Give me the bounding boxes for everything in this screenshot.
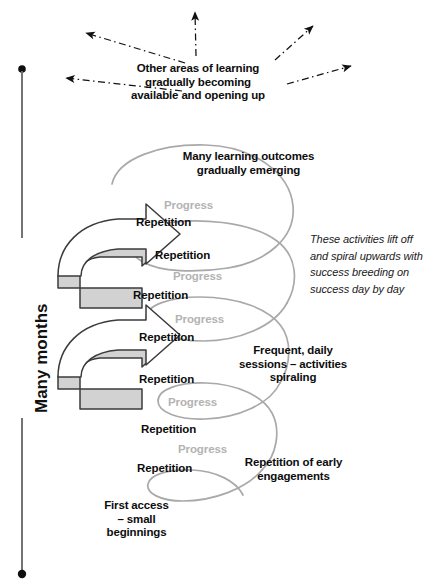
cycle-label-repetition-2: Repetition — [155, 249, 210, 261]
callout-other-areas-line-2: gradually becoming — [118, 76, 278, 90]
callout-other-areas-line-1: Other areas of learning — [118, 62, 278, 76]
callout-outcomes-line-1: Many learning outcomes — [166, 150, 331, 164]
cycle-label-repetition-4: Repetition — [139, 331, 194, 343]
arrow-up — [195, 12, 196, 56]
callout-other-areas: Other areas of learning gradually becomi… — [118, 62, 278, 103]
spiral-arrow-upper-head — [58, 204, 180, 276]
callout-frequent-line-2: sessions – activities — [229, 358, 357, 372]
arrow-up-left — [86, 33, 185, 63]
callout-early-line-1: Repetition of early — [232, 456, 355, 470]
callout-first-access: First access – small beginnings — [84, 499, 189, 540]
callout-other-areas-line-3: available and opening up — [118, 89, 278, 103]
cycle-label-progress-3: Progress — [175, 313, 224, 325]
diagram-canvas: Many months Other areas of learning grad… — [0, 0, 447, 587]
side-note-line-3: success breeding on — [310, 264, 445, 281]
cycle-label-progress-5: Progress — [178, 443, 227, 455]
side-note-line-4: success day by day — [310, 281, 445, 298]
axis-label-many-months: Many months — [32, 303, 52, 413]
cycle-label-progress-2: Progress — [173, 270, 222, 282]
time-axis — [18, 65, 26, 578]
cycle-label-repetition-3: Repetition — [133, 289, 188, 301]
callout-frequent-daily-sessions: Frequent, daily sessions – activities sp… — [229, 344, 357, 385]
cycle-label-repetition-6: Repetition — [141, 423, 196, 435]
side-note-line-2: and spiral upwards with — [310, 248, 445, 265]
callout-frequent-line-1: Frequent, daily — [229, 344, 357, 358]
arrow-right — [287, 66, 351, 84]
callout-first-access-line-1: First access — [84, 499, 189, 513]
callout-early-line-2: engagements — [232, 470, 355, 484]
cycle-label-repetition-1: Repetition — [136, 216, 191, 228]
callout-outcomes-line-2: gradually emerging — [166, 164, 331, 178]
cycle-label-repetition-5: Repetition — [139, 373, 194, 385]
callout-repetition-early-engagements: Repetition of early engagements — [232, 456, 355, 483]
cycle-label-progress-4: Progress — [168, 396, 217, 408]
callout-first-access-line-3: beginnings — [84, 526, 189, 540]
side-note-spiral-upwards: These activities lift off and spiral upw… — [310, 231, 445, 297]
side-note-line-1: These activities lift off — [310, 231, 445, 248]
callout-frequent-line-3: spiraling — [229, 371, 357, 385]
arrow-up-right — [275, 26, 313, 60]
cycle-label-progress-1: Progress — [164, 199, 213, 211]
cycle-label-repetition-7: Repetition — [137, 462, 192, 474]
callout-first-access-line-2: – small — [84, 513, 189, 527]
axis-bottom-cap — [18, 570, 26, 578]
callout-many-learning-outcomes: Many learning outcomes gradually emergin… — [166, 150, 331, 177]
